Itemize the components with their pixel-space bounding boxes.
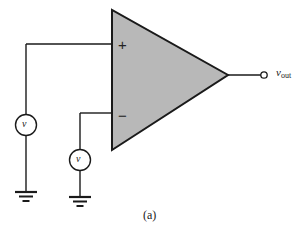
opamp-triangle <box>112 10 228 150</box>
ground-symbol-1 <box>15 192 37 201</box>
circuit-schematic <box>0 0 301 239</box>
output-label-subscript: out <box>281 71 292 80</box>
figure-caption: (a) <box>143 209 156 221</box>
ground-symbol-2 <box>69 197 91 206</box>
voltage-source-2-label: v <box>76 154 80 164</box>
noninverting-input-label: + <box>118 37 127 52</box>
voltage-source-1-label: v <box>22 119 26 129</box>
figure-canvas: + − vout v v (a) <box>0 0 301 239</box>
output-terminal-icon <box>261 72 267 78</box>
inverting-input-label: − <box>118 108 127 123</box>
output-label: vout <box>276 67 291 81</box>
